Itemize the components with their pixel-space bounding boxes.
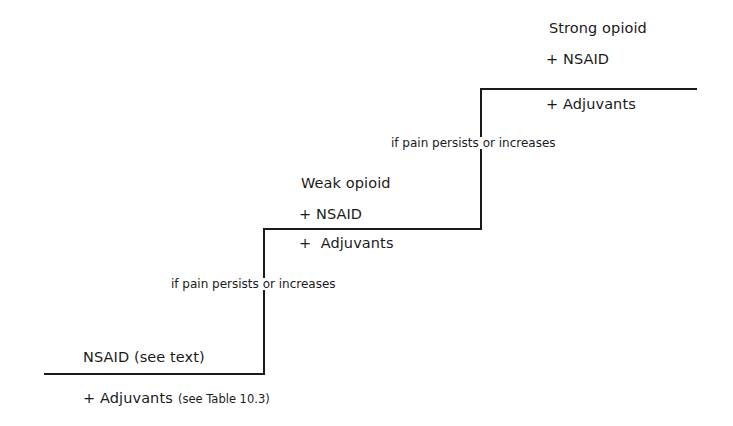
transition-2-label: if pain persists or increases: [390, 137, 557, 149]
transition-1-label: if pain persists or increases: [170, 278, 337, 290]
step-1-adjuvants-label: + Adjuvants: [83, 390, 173, 406]
step-1-riser: [263, 229, 265, 375]
step-1-adjuvants: + Adjuvants (see Table 10.3): [83, 390, 270, 406]
step-3-tread: [480, 88, 697, 90]
step-3-title: Strong opioid: [549, 21, 647, 36]
step-2-tread: [263, 228, 482, 230]
step-2-title: Weak opioid: [301, 176, 391, 191]
step-3-adjuvants: + Adjuvants: [546, 97, 636, 112]
step-1-adjuvants-note: (see Table 10.3): [178, 392, 270, 406]
step-1-title: NSAID (see text): [83, 350, 205, 365]
step-2-nsaid: + NSAID: [299, 207, 362, 222]
step-1-tread: [44, 373, 265, 375]
step-2-adjuvants: + Adjuvants: [299, 236, 394, 251]
step-2-riser: [480, 89, 482, 230]
step-3-nsaid: + NSAID: [546, 52, 609, 67]
